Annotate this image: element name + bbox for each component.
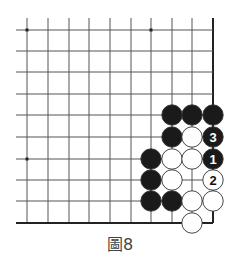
move-number: 2 <box>209 173 216 188</box>
black-stone <box>162 105 182 125</box>
white-stone <box>182 127 202 147</box>
black-stone <box>141 149 161 169</box>
white-stone <box>203 191 223 211</box>
black-stone <box>203 105 223 125</box>
black-stone <box>141 191 161 211</box>
white-stone <box>182 191 202 211</box>
black-stone <box>182 105 202 125</box>
move-number: 3 <box>209 130 216 145</box>
white-stone: 2 <box>203 170 223 190</box>
move-number: 1 <box>209 152 216 167</box>
white-stone <box>182 149 202 169</box>
black-stone <box>162 191 182 211</box>
white-stone <box>162 170 182 190</box>
figure-caption: 圖8 <box>0 231 240 255</box>
hoshi-point <box>26 29 29 32</box>
black-stone <box>162 127 182 147</box>
black-stone: 3 <box>203 127 223 147</box>
hoshi-point <box>26 158 29 161</box>
white-stone <box>162 149 182 169</box>
go-board: 312 <box>0 0 240 261</box>
black-stone <box>141 170 161 190</box>
stones: 312 <box>141 105 223 233</box>
black-stone: 1 <box>203 149 223 169</box>
hoshi-point <box>150 29 153 32</box>
